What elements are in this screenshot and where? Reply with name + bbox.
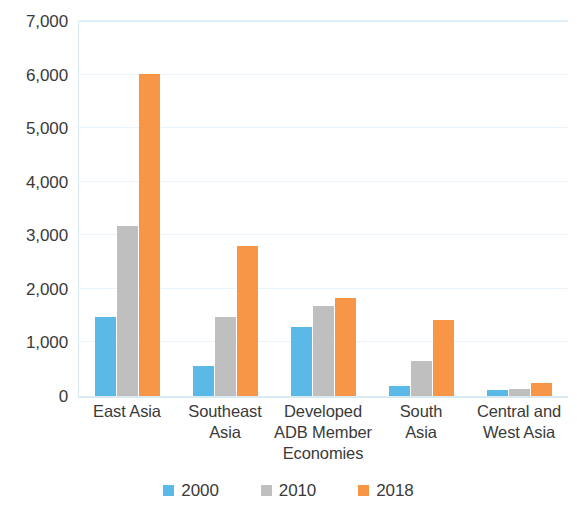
- bar[interactable]: [95, 317, 116, 396]
- bar[interactable]: [117, 226, 138, 396]
- legend-label: 2000: [181, 482, 218, 499]
- bar-group: [487, 21, 552, 396]
- bar[interactable]: [487, 390, 508, 396]
- x-axis-tick-label: SouthAsia: [366, 401, 476, 443]
- legend-label: 2018: [376, 482, 413, 499]
- bar[interactable]: [237, 246, 258, 396]
- bar[interactable]: [509, 389, 530, 396]
- bar-group: [193, 21, 258, 396]
- x-axis-tick-label: SoutheastAsia: [170, 401, 280, 443]
- bar-group: [291, 21, 356, 396]
- legend-item[interactable]: 2000: [163, 482, 218, 499]
- legend-swatch-icon: [358, 485, 369, 496]
- bar[interactable]: [291, 327, 312, 396]
- x-axis: East AsiaSoutheastAsiaDevelopedADB Membe…: [78, 401, 568, 473]
- y-axis-tick-label: 3,000: [26, 227, 68, 244]
- legend-item[interactable]: 2010: [261, 482, 316, 499]
- bar[interactable]: [313, 306, 334, 396]
- y-axis-tick-label: 4,000: [26, 174, 68, 191]
- y-axis-tick-label: 2,000: [26, 281, 68, 298]
- bar[interactable]: [335, 298, 356, 396]
- y-axis: 7,0006,0005,0004,0003,0002,0001,0000: [0, 0, 74, 410]
- bar[interactable]: [193, 366, 214, 396]
- y-axis-tick-label: 5,000: [26, 120, 68, 137]
- bar[interactable]: [139, 74, 160, 396]
- y-axis-tick-label: 6,000: [26, 67, 68, 84]
- x-axis-tick-label: DevelopedADB MemberEconomies: [268, 401, 378, 464]
- y-axis-tick-label: 0: [59, 388, 68, 405]
- bar[interactable]: [389, 386, 410, 396]
- legend-label: 2010: [279, 482, 316, 499]
- y-axis-tick-label: 1,000: [26, 334, 68, 351]
- x-axis-tick-label: Central andWest Asia: [464, 401, 574, 443]
- legend-swatch-icon: [163, 485, 174, 496]
- bars-layer: [78, 21, 568, 396]
- legend-item[interactable]: 2018: [358, 482, 413, 499]
- bar[interactable]: [215, 317, 236, 396]
- bar-group: [95, 21, 160, 396]
- bar-chart: 7,0006,0005,0004,0003,0002,0001,0000 Eas…: [0, 0, 577, 507]
- chart-legend: 200020102018: [0, 482, 577, 499]
- x-axis-line: [78, 396, 568, 398]
- bar[interactable]: [531, 383, 552, 396]
- y-axis-tick-label: 7,000: [26, 13, 68, 30]
- legend-swatch-icon: [261, 485, 272, 496]
- bar-group: [389, 21, 454, 396]
- bar[interactable]: [411, 361, 432, 396]
- x-axis-tick-label: East Asia: [72, 401, 182, 422]
- bar[interactable]: [433, 320, 454, 396]
